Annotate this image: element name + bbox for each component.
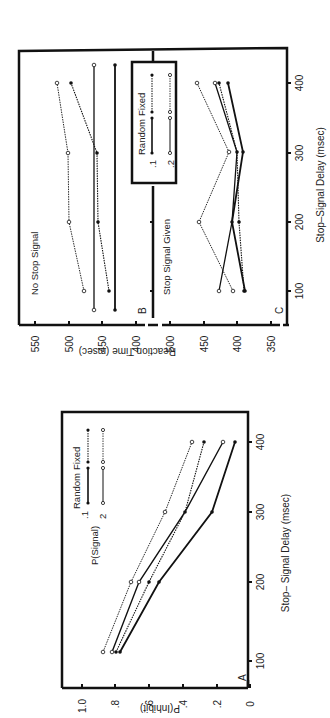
panel-c-letter: C bbox=[274, 307, 285, 314]
top-chart-xlabel: Stop–Signal Delay (msec) bbox=[315, 127, 326, 243]
figure: 550 500 450 400 500 450 400 350 Reaction… bbox=[0, 0, 330, 718]
panel-b-series bbox=[55, 63, 117, 312]
panel-c-ytick: 350 bbox=[266, 335, 277, 352]
legend-random-label: Random bbox=[136, 119, 147, 155]
bottom-chart: 1.0 .8 .6 .4 .2 0 P(Inhibit) 100 200 300… bbox=[62, 412, 291, 714]
legend-random-label: Random bbox=[71, 473, 82, 509]
panel-b-ytick: 500 bbox=[64, 335, 75, 352]
panel-c-title: Stop Signal Given bbox=[161, 219, 172, 295]
bottom-ytick: .2 bbox=[212, 699, 223, 708]
legend-row-1: .1 bbox=[147, 160, 158, 168]
bottom-xtick: 100 bbox=[255, 652, 266, 669]
legend-fixed-label: Fixed bbox=[136, 93, 147, 116]
bottom-legend: P(Signal) Random Fixed .1 2 bbox=[71, 428, 108, 565]
top-legend: Random Fixed .1 .2 bbox=[132, 62, 176, 183]
panel-c-ytick: 400 bbox=[232, 335, 243, 352]
legend-row-2: .2 bbox=[165, 160, 176, 168]
panel-b-letter: B bbox=[137, 307, 148, 314]
panel-b-title: No Stop Signal bbox=[29, 232, 40, 295]
bottom-chart-xlabel: Stop– Signal Delay (msec) bbox=[280, 494, 291, 612]
panel-b-ytick: 550 bbox=[30, 335, 41, 352]
panel-c-ytick: 450 bbox=[199, 335, 210, 352]
top-xtick: 200 bbox=[294, 213, 305, 230]
top-chart-ylabel: Reaction Time (msec) bbox=[79, 346, 176, 357]
bottom-ytick: .8 bbox=[110, 699, 121, 708]
top-chart: 550 500 450 400 500 450 400 350 Reaction… bbox=[19, 48, 326, 357]
bottom-xtick: 300 bbox=[255, 503, 266, 520]
legend-row-1: .1 bbox=[79, 511, 90, 519]
bottom-chart-ylabel: P(Inhibit) bbox=[140, 703, 180, 714]
bottom-xtick: 200 bbox=[255, 573, 266, 590]
top-xtick: 300 bbox=[294, 144, 305, 161]
legend-fixed-label: Fixed bbox=[71, 447, 82, 470]
bottom-ytick: 1.0 bbox=[77, 699, 88, 713]
panel-a-series bbox=[101, 440, 237, 654]
legend-psignal-title: P(Signal) bbox=[89, 526, 100, 565]
panel-a-letter: A bbox=[237, 674, 248, 681]
bottom-ytick: 0 bbox=[245, 701, 256, 707]
top-xtick: 400 bbox=[294, 74, 305, 91]
top-xtick: 100 bbox=[294, 282, 305, 299]
bottom-xtick: 400 bbox=[255, 433, 266, 450]
legend-row-2: 2 bbox=[97, 514, 108, 519]
panel-c-series bbox=[195, 81, 247, 293]
